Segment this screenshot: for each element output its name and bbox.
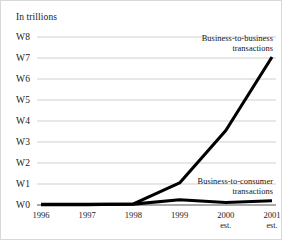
x-tick-label: 1996 [32, 210, 49, 221]
x-tick-year: 1999 [171, 210, 188, 220]
y-tick-label: W2 [16, 158, 30, 168]
annotation-business-to-consumer: Business-to-consumer transactions [198, 177, 273, 197]
x-tick-label: 2000est. [217, 210, 234, 231]
y-tick-label: W7 [16, 53, 30, 63]
annotation-business-to-business: Business-to-business transactions [202, 34, 273, 54]
y-tick-label: W5 [16, 95, 30, 105]
series-line-b2c [41, 200, 272, 205]
y-tick-label: W6 [16, 74, 30, 84]
x-tick-label: 1998 [125, 210, 142, 221]
y-tick-label: W8 [16, 32, 30, 42]
x-tick-year: 2001 [263, 210, 280, 220]
x-tick-year: 1998 [125, 210, 142, 220]
x-tick-label: 2001est. [263, 210, 280, 231]
annotation-b2c-line1: Business-to-consumer [198, 177, 273, 186]
y-tick-label: W4 [16, 116, 30, 126]
x-tick-estimate-note: est. [263, 221, 280, 232]
x-tick-estimate-note: est. [217, 221, 234, 232]
x-tick-label: 1997 [79, 210, 96, 221]
annotation-b2b-line2: transactions [232, 44, 273, 53]
annotation-b2b-line1: Business-to-business [202, 34, 273, 43]
x-tick-label: 1999 [171, 210, 188, 221]
y-tick-label: W1 [16, 179, 30, 189]
annotation-b2c-line2: transactions [232, 187, 273, 196]
x-tick-year: 1997 [79, 210, 96, 220]
chart-figure: In trillions W0W1W2W3W4W5W6W7W8 19961997… [0, 0, 282, 240]
y-tick-label: W0 [16, 200, 30, 210]
y-tick-label: W3 [16, 137, 30, 147]
x-tick-year: 1996 [32, 210, 49, 220]
x-tick-year: 2000 [217, 210, 234, 220]
